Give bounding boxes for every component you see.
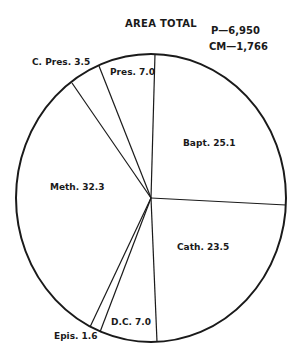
divider-epis-meth — [90, 198, 151, 327]
slice-label-bapt: Bapt. 25.1 — [183, 138, 235, 148]
divider-dc-epis — [100, 198, 151, 332]
pie-chart — [0, 0, 301, 360]
slice-label-cpres: C. Pres. 3.5 — [32, 57, 90, 67]
slice-label-dc: D.C. 7.0 — [111, 317, 151, 327]
divider-cpres-pres — [99, 66, 151, 198]
slice-label-pres: Pres. 7.0 — [110, 67, 155, 77]
divider-meth-cpres — [72, 83, 151, 198]
slice-label-epis: Epis. 1.6 — [54, 331, 98, 341]
divider-cath-dc — [151, 198, 157, 342]
divider-bapt-cath — [151, 198, 286, 205]
slice-label-meth: Meth. 32.3 — [50, 182, 105, 192]
slice-dividers — [72, 54, 286, 342]
slice-label-cath: Cath. 23.5 — [177, 242, 229, 252]
